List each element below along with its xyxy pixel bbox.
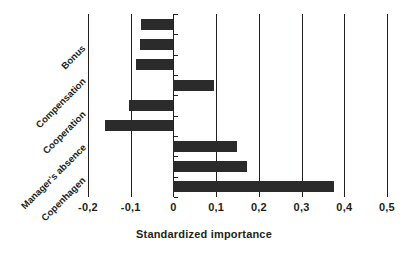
x-tick-label: -0,1	[111, 201, 151, 213]
bar	[173, 181, 333, 192]
category-tick	[174, 156, 178, 157]
x-tick-label: -0,2	[68, 201, 108, 213]
category-tick	[174, 136, 178, 137]
category-tick	[174, 116, 178, 117]
x-axis-title: Standardized importance	[0, 228, 408, 240]
bar	[141, 19, 173, 30]
category-tick	[174, 197, 178, 198]
x-tick-label: 0,4	[324, 201, 364, 213]
gridline-7	[387, 14, 388, 197]
bar	[129, 100, 174, 111]
category-label: Bonus	[59, 43, 88, 72]
category-tick	[174, 34, 178, 35]
x-tick-label: 0,1	[196, 201, 236, 213]
bar	[173, 161, 246, 172]
x-tick-label: 0,2	[239, 201, 279, 213]
category-tick	[174, 75, 178, 76]
category-tick	[174, 95, 178, 96]
category-tick	[174, 177, 178, 178]
horizontal-bar-chart: -0,2-0,100,10,20,30,40,5 BonusCompensati…	[0, 0, 408, 262]
bar	[140, 39, 173, 50]
plot-area	[88, 14, 387, 197]
bar	[173, 80, 214, 91]
x-tick-label: 0,5	[367, 201, 407, 213]
gridline-6	[344, 14, 345, 197]
category-tick	[174, 14, 178, 15]
bar	[136, 59, 174, 70]
gridline-0	[88, 14, 89, 197]
x-tick-label: 0	[153, 201, 193, 213]
x-tick-label: 0,3	[282, 201, 322, 213]
bar	[105, 120, 173, 131]
category-tick	[174, 55, 178, 56]
gridline-5	[302, 14, 303, 197]
gridline-4	[259, 14, 260, 197]
bar	[173, 141, 236, 152]
